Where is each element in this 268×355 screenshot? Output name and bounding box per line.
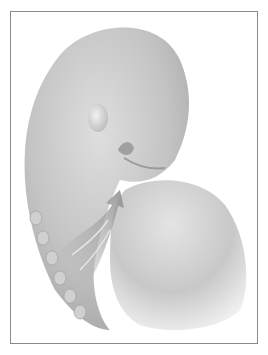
embryo-eye <box>88 104 108 132</box>
embryo-illustration <box>0 0 268 355</box>
embryo-bulge <box>110 180 246 330</box>
